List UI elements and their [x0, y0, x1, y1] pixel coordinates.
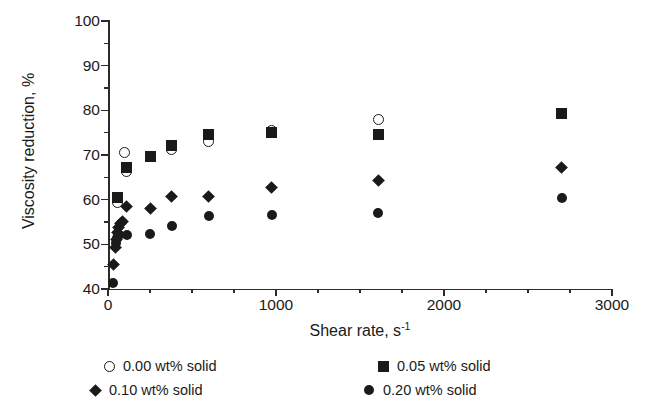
- legend-marker-glyph: [364, 385, 374, 395]
- y-axis-tick-major: [101, 65, 108, 67]
- data-point-marker: [108, 278, 118, 288]
- y-axis-title-text: Viscosity reduction, %: [20, 73, 37, 229]
- data-point-marker: [166, 140, 177, 151]
- x-axis-tick-major: [443, 289, 445, 296]
- y-axis-tick-label: 50: [60, 236, 100, 252]
- y-axis-tick-label: 70: [60, 147, 100, 163]
- x-axis-title: Shear rate, s-1: [108, 320, 612, 340]
- y-axis-tick-label: 60: [60, 192, 100, 208]
- legend-marker-glyph: [89, 384, 102, 397]
- data-point-marker: [265, 181, 278, 194]
- y-axis-tick-major: [101, 244, 108, 246]
- legend-item[interactable]: 0.20 wt% solid: [362, 382, 477, 398]
- legend-item[interactable]: 0.10 wt% solid: [88, 382, 203, 398]
- x-axis-tick-major: [107, 289, 109, 296]
- x-axis-tick-minor: [527, 289, 529, 293]
- data-point-marker: [373, 114, 384, 125]
- y-axis-tick-major: [101, 20, 108, 22]
- data-point-marker: [202, 191, 215, 204]
- y-axis-tick-label: 40: [60, 281, 100, 297]
- data-point-marker: [120, 200, 133, 213]
- data-point-marker: [203, 129, 214, 140]
- data-point-marker: [373, 129, 384, 140]
- data-point-marker: [204, 211, 214, 221]
- x-axis-title-superscript: -1: [401, 320, 410, 332]
- x-axis-tick-label: 2000: [414, 297, 474, 313]
- x-axis-tick-major: [275, 289, 277, 296]
- x-axis-tick-minor: [569, 289, 571, 293]
- legend-item-label: 0.20 wt% solid: [383, 382, 477, 398]
- data-point-marker: [267, 210, 277, 220]
- x-axis-tick-label: 1000: [246, 297, 306, 313]
- y-axis-tick-major: [101, 199, 108, 201]
- data-point-marker: [107, 258, 120, 271]
- x-axis-tick-minor: [149, 289, 151, 293]
- data-point-marker: [145, 151, 156, 162]
- x-axis-title-text: Shear rate, s: [310, 322, 402, 339]
- data-point-marker: [121, 162, 132, 173]
- legend-marker-icon: [362, 383, 376, 397]
- data-point-marker: [557, 193, 567, 203]
- x-axis-tick-minor: [317, 289, 319, 293]
- data-point-marker: [555, 161, 568, 174]
- legend-marker-glyph: [378, 361, 389, 372]
- plot-area: [108, 21, 612, 289]
- x-axis-tick-minor: [359, 289, 361, 293]
- x-axis-tick-major: [611, 289, 613, 296]
- data-point-marker: [119, 147, 130, 158]
- x-axis-tick-minor: [191, 289, 193, 293]
- scatter-chart-figure: 405060708090100 0100020003000 Viscosity …: [0, 0, 652, 418]
- y-axis-tick-label: 90: [60, 58, 100, 74]
- x-axis-tick-label: 3000: [582, 297, 642, 313]
- data-point-marker: [145, 229, 155, 239]
- data-point-marker: [266, 127, 277, 138]
- x-axis-tick-minor: [401, 289, 403, 293]
- y-axis-tick-major: [101, 154, 108, 156]
- data-point-marker: [372, 175, 385, 188]
- legend-item-label: 0.00 wt% solid: [123, 358, 217, 374]
- y-axis-tick-label: 80: [60, 102, 100, 118]
- legend-marker-icon: [88, 383, 102, 397]
- data-point-marker: [144, 202, 157, 215]
- y-axis-tick-label: 100: [60, 13, 100, 29]
- data-point-marker: [167, 221, 177, 231]
- legend-marker-icon: [376, 359, 390, 373]
- legend-item[interactable]: 0.00 wt% solid: [102, 358, 217, 374]
- data-point-marker: [373, 208, 383, 218]
- legend-marker-icon: [102, 359, 116, 373]
- x-axis-tick-minor: [233, 289, 235, 293]
- x-axis-tick-label: 0: [78, 297, 138, 313]
- chart-legend: 0.00 wt% solid0.05 wt% solid0.10 wt% sol…: [88, 358, 608, 406]
- y-axis-title: Viscosity reduction, %: [20, 36, 38, 266]
- legend-marker-glyph: [104, 361, 115, 372]
- legend-item-label: 0.05 wt% solid: [397, 358, 491, 374]
- data-point-marker: [165, 191, 178, 204]
- data-point-marker: [122, 230, 132, 240]
- y-axis-tick-major: [101, 110, 108, 112]
- legend-item-label: 0.10 wt% solid: [109, 382, 203, 398]
- x-axis-tick-minor: [485, 289, 487, 293]
- legend-item[interactable]: 0.05 wt% solid: [376, 358, 491, 374]
- data-point-marker: [556, 108, 567, 119]
- data-point-marker: [112, 192, 123, 203]
